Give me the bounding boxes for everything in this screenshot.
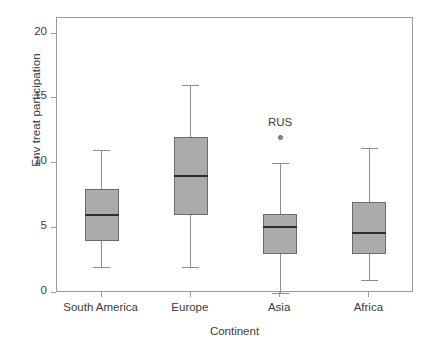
whisker-cap-upper bbox=[272, 163, 289, 164]
plot-area: RUS bbox=[56, 17, 413, 292]
median-line bbox=[85, 214, 119, 216]
whisker-cap-upper bbox=[93, 150, 110, 151]
whisker-lower bbox=[280, 254, 281, 293]
y-tick-label: 15 bbox=[34, 89, 47, 101]
y-tick-mark bbox=[51, 292, 56, 293]
y-tick-15: 15 bbox=[0, 97, 56, 98]
whisker-upper bbox=[190, 85, 191, 137]
x-axis-title: Continent bbox=[56, 325, 413, 337]
y-tick-label: 5 bbox=[41, 219, 47, 231]
whisker-cap-lower bbox=[182, 267, 199, 268]
whisker-cap-lower bbox=[361, 280, 378, 281]
whisker-upper bbox=[101, 150, 102, 189]
y-tick-label: 0 bbox=[41, 284, 47, 296]
y-tick-0: 0 bbox=[0, 292, 56, 293]
whisker-cap-lower bbox=[272, 293, 289, 294]
box-iqr bbox=[352, 202, 386, 254]
x-tick-label: Africa bbox=[298, 301, 427, 313]
whisker-cap-upper bbox=[361, 148, 378, 149]
box-plot-chart: Env treat participation 05101520 RUS Sou… bbox=[0, 0, 427, 350]
median-line bbox=[263, 226, 297, 228]
box-iqr bbox=[263, 214, 297, 254]
whisker-cap-upper bbox=[182, 85, 199, 86]
x-tick-mark bbox=[368, 292, 369, 297]
x-tick-mark bbox=[190, 292, 191, 297]
y-tick-label: 20 bbox=[34, 25, 47, 37]
x-tick-mark bbox=[101, 292, 102, 297]
whisker-cap-lower bbox=[93, 267, 110, 268]
outlier-point bbox=[278, 135, 283, 140]
y-tick-10: 10 bbox=[0, 162, 56, 163]
whisker-lower bbox=[369, 254, 370, 280]
outlier-label: RUS bbox=[240, 116, 320, 128]
median-line bbox=[352, 232, 386, 234]
median-line bbox=[174, 175, 208, 177]
y-axis-title: Env treat participation bbox=[30, 10, 42, 210]
y-tick-label: 10 bbox=[34, 154, 47, 166]
whisker-lower bbox=[101, 241, 102, 267]
y-tick-20: 20 bbox=[0, 33, 56, 34]
x-tick-mark bbox=[279, 292, 280, 297]
whisker-upper bbox=[280, 163, 281, 214]
whisker-upper bbox=[369, 148, 370, 202]
whisker-lower bbox=[190, 215, 191, 267]
y-tick-5: 5 bbox=[0, 227, 56, 228]
